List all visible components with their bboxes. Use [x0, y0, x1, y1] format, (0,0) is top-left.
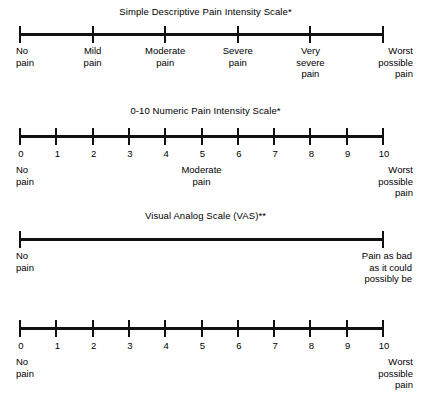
tick-mark — [309, 320, 311, 337]
tick-mark — [128, 320, 130, 337]
scale-anchor-worst-possible-pain: Worst possible pain — [323, 164, 413, 199]
tick-mark — [55, 128, 57, 145]
scale-title-visual-analog: Visual Analog Scale (VAS)** — [0, 210, 411, 222]
tick-mark — [19, 231, 21, 248]
scale-anchor-moderate-pain: Moderate pain — [162, 164, 242, 187]
tick-mark — [382, 128, 384, 145]
tick-mark — [382, 26, 384, 43]
tick-mark — [201, 128, 203, 145]
scale-anchor-worst-possible-pain: Worst possible pain — [323, 356, 413, 391]
tick-mark — [309, 128, 311, 145]
tick-mark — [346, 320, 348, 337]
tick-mark — [346, 128, 348, 145]
tick-mark — [19, 26, 21, 43]
axis-line-visual-analog — [20, 238, 383, 241]
tick-mark — [92, 320, 94, 337]
scale-number-3: 3 — [118, 148, 142, 159]
scale-number-7: 7 — [263, 340, 287, 351]
scale-number-4: 4 — [154, 148, 178, 159]
scale-number-1: 1 — [45, 340, 69, 351]
scale-anchor-no-pain: No pain — [16, 164, 96, 187]
scale-number-6: 6 — [227, 340, 251, 351]
tick-mark — [273, 128, 275, 145]
tick-mark — [164, 26, 166, 43]
scale-number-9: 9 — [336, 340, 360, 351]
tick-mark — [92, 128, 94, 145]
tick-mark — [128, 128, 130, 145]
scale-number-2: 2 — [82, 340, 106, 351]
tick-mark — [382, 320, 384, 337]
tick-mark — [92, 26, 94, 43]
tick-mark — [164, 320, 166, 337]
scale-number-4: 4 — [154, 340, 178, 351]
pain-scale-figure: Simple Descriptive Pain Intensity Scale*… — [0, 0, 427, 400]
tick-mark — [273, 320, 275, 337]
scale-title-numeric: 0-10 Numeric Pain Intensity Scale* — [0, 105, 411, 117]
scale-number-6: 6 — [227, 148, 251, 159]
tick-mark — [55, 320, 57, 337]
scale-number-2: 2 — [82, 148, 106, 159]
scale-number-7: 7 — [263, 148, 287, 159]
tick-mark — [309, 26, 311, 43]
tick-mark — [237, 320, 239, 337]
tick-mark — [19, 320, 21, 337]
scale-title-simple-descriptive: Simple Descriptive Pain Intensity Scale* — [0, 6, 411, 18]
scale-number-9: 9 — [336, 148, 360, 159]
scale-number-5: 5 — [191, 340, 215, 351]
scale-number-0: 0 — [9, 148, 33, 159]
scale-label-severe-pain: Severe pain — [198, 45, 278, 68]
tick-mark — [382, 231, 384, 248]
scale-number-3: 3 — [118, 340, 142, 351]
scale-anchor-no-pain: No pain — [16, 356, 96, 379]
tick-mark — [237, 26, 239, 43]
vas-anchor-pain-as-bad: Pain as bad as it could possibly be — [302, 250, 412, 285]
scale-number-0: 0 — [9, 340, 33, 351]
vas-anchor-no-pain: No pain — [16, 250, 34, 273]
tick-mark — [201, 320, 203, 337]
scale-number-8: 8 — [299, 148, 323, 159]
scale-number-10: 10 — [372, 148, 396, 159]
scale-number-10: 10 — [372, 340, 396, 351]
tick-mark — [19, 128, 21, 145]
scale-label-moderate-pain: Moderate pain — [125, 45, 205, 68]
scale-number-8: 8 — [299, 340, 323, 351]
scale-label-mild-pain: Mild pain — [53, 45, 133, 68]
tick-mark — [164, 128, 166, 145]
scale-number-1: 1 — [45, 148, 69, 159]
tick-mark — [237, 128, 239, 145]
axis-line-simple-descriptive — [20, 33, 383, 36]
scale-number-5: 5 — [191, 148, 215, 159]
scale-label-worst-possible-pain: Worst possible pain — [323, 45, 413, 80]
